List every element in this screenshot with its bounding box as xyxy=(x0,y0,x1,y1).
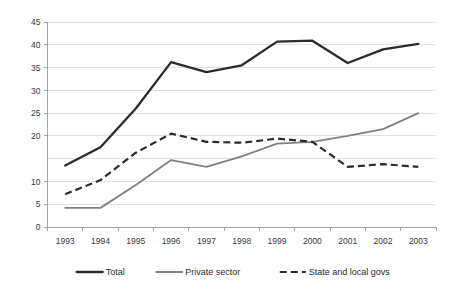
y-axis-tick-label: 35 xyxy=(31,63,41,73)
x-axis-tick-label: 1996 xyxy=(162,236,181,246)
x-axis-tick-label: 1994 xyxy=(91,236,110,246)
y-axis-tick-label: 30 xyxy=(31,86,41,96)
legend-label-private-sector: Private sector xyxy=(185,267,240,277)
x-axis-tick-label: 2000 xyxy=(303,236,322,246)
x-axis-tick-label: 1995 xyxy=(126,236,145,246)
y-axis-tick-label: 25 xyxy=(31,108,41,118)
y-axis-tick-label: 5 xyxy=(36,199,41,209)
x-axis-tick-label: 2001 xyxy=(338,236,357,246)
y-axis-tick-labels: 0510202530354045 xyxy=(31,17,47,232)
x-axis-tick-label: 2002 xyxy=(374,236,393,246)
y-axis-tick-label: 20 xyxy=(31,131,41,141)
x-axis-tick-label: 1998 xyxy=(232,236,251,246)
x-axis-tick-label: 2003 xyxy=(409,236,428,246)
series-line-total xyxy=(65,41,418,166)
x-axis-tick-label: 1999 xyxy=(268,236,287,246)
series-group xyxy=(65,41,418,208)
axes-group xyxy=(48,22,437,227)
y-axis-tick-label: 40 xyxy=(31,40,41,50)
legend-label-state-and-local-govs: State and local govs xyxy=(309,267,391,277)
series-line-state-and-local-govs xyxy=(65,134,418,195)
chart-svg: 0510202530354045 19931994199519961997199… xyxy=(0,0,456,291)
y-axis-tick-label: 0 xyxy=(36,222,41,232)
y-axis-tick-label: 45 xyxy=(31,17,41,27)
x-axis-tick-label: 1997 xyxy=(197,236,216,246)
x-axis-tick-label: 1993 xyxy=(56,236,75,246)
legend-label-total: Total xyxy=(106,267,125,277)
y-axis-tick-label: 10 xyxy=(31,177,41,187)
x-axis-tick-labels: 1993199419951996199719981999200020012002… xyxy=(48,227,437,246)
line-chart: 0510202530354045 19931994199519961997199… xyxy=(0,0,456,291)
chart-legend: TotalPrivate sectorState and local govs xyxy=(77,267,391,277)
